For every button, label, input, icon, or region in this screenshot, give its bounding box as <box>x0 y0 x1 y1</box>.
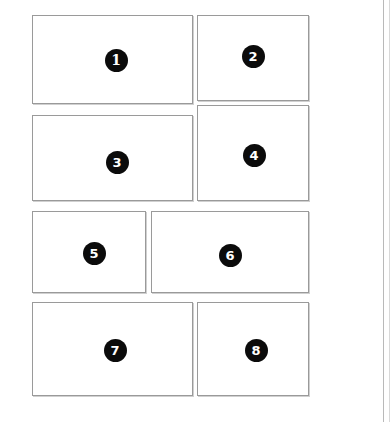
panel-number-badge-1: 1 <box>105 49 128 72</box>
panel-number-badge-8: 8 <box>245 339 268 362</box>
panel-number-badge-2: 2 <box>242 45 265 68</box>
panel-number-badge-5: 5 <box>83 242 106 265</box>
panel-grid: 12345678 <box>0 0 392 422</box>
screenshot-root: 12345678 <box>0 0 392 422</box>
page-edge-outer <box>389 0 390 422</box>
panel-number-badge-3: 3 <box>106 151 129 174</box>
panel-number-badge-6: 6 <box>219 244 242 267</box>
page-edge-inner <box>383 0 384 422</box>
panel-number-badge-7: 7 <box>104 339 127 362</box>
panel-number-badge-4: 4 <box>243 144 266 167</box>
